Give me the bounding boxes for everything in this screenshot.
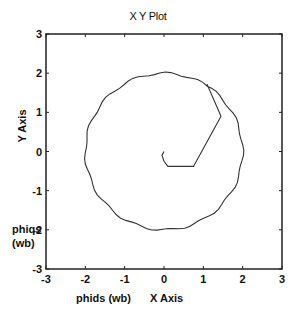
y-tick-label: -1 xyxy=(32,185,42,197)
y-tick-label: 1 xyxy=(36,106,42,118)
y-tick-label: 3 xyxy=(36,28,42,40)
x-tick-label: 1 xyxy=(200,273,206,285)
phids-annotation: phids (wb) xyxy=(76,292,131,304)
y-tick-label: -3 xyxy=(32,263,42,275)
x-tick-label: 2 xyxy=(240,273,246,285)
x-axis-label: X Axis xyxy=(150,292,183,304)
x-tick-label: -1 xyxy=(120,273,130,285)
phiqs-annotation: phiqs (wb) xyxy=(12,222,41,250)
series-line xyxy=(85,72,244,230)
x-tick-label: -3 xyxy=(41,273,51,285)
plot-area: -3-2-10123-3-2-10123 xyxy=(0,0,296,318)
x-tick-label: 0 xyxy=(161,273,167,285)
y-tick-label: 0 xyxy=(36,146,42,158)
y-axis-label: Y Axis xyxy=(16,109,28,142)
phiqs-line1: phiqs xyxy=(12,222,41,236)
x-tick-label: -2 xyxy=(80,273,90,285)
y-tick-label: 2 xyxy=(36,67,42,79)
phiqs-line2: (wb) xyxy=(12,236,41,250)
x-tick-label: 3 xyxy=(279,273,285,285)
